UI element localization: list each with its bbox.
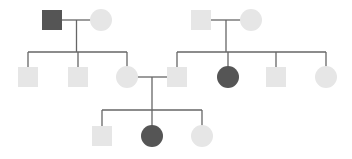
- pedigree-diagram: [0, 0, 352, 159]
- affected-female-II-5: [217, 66, 239, 88]
- unaffected-male-II-2: [68, 67, 88, 87]
- unaffected-female-II-3: [116, 66, 138, 88]
- affected-female-III-2: [141, 125, 163, 147]
- unaffected-female-I-2: [90, 9, 112, 31]
- unaffected-male-II-1: [18, 67, 38, 87]
- unaffected-female-III-3: [191, 125, 213, 147]
- unaffected-female-II-7: [315, 66, 337, 88]
- individuals: [18, 9, 337, 147]
- affected-male-I-1: [42, 10, 62, 30]
- unaffected-male-III-1: [92, 126, 112, 146]
- unaffected-male-II-4: [167, 67, 187, 87]
- unaffected-male-I-3: [191, 10, 211, 30]
- unaffected-female-I-4: [240, 9, 262, 31]
- unaffected-male-II-6: [266, 67, 286, 87]
